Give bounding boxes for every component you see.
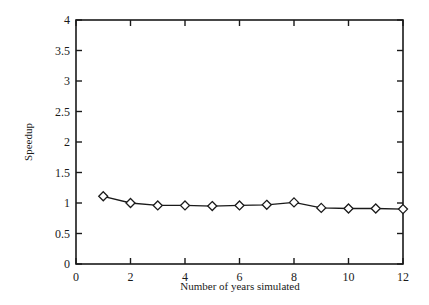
x-axis-label: Number of years simulated — [180, 280, 300, 292]
diamond-marker-icon — [344, 204, 353, 213]
y-tick-label: 1 — [64, 196, 70, 210]
diamond-marker-icon — [371, 204, 380, 213]
y-tick-label: 3.5 — [55, 44, 70, 58]
y-tick-label: 1.5 — [55, 166, 70, 180]
series-line — [103, 196, 403, 209]
diamond-marker-icon — [235, 201, 244, 210]
speedup-line-chart: 00.511.522.533.54 024681012 Number of ye… — [0, 0, 429, 305]
diamond-marker-icon — [153, 201, 162, 210]
plot-border — [76, 20, 403, 264]
diamond-marker-icon — [126, 199, 135, 208]
x-tick-label: 10 — [343, 270, 355, 284]
diamond-marker-icon — [99, 192, 108, 201]
y-axis-label: Speedup — [22, 123, 34, 161]
diamond-marker-icon — [290, 198, 299, 207]
diamond-marker-icon — [399, 205, 408, 214]
diamond-marker-icon — [208, 202, 217, 211]
diamond-marker-icon — [317, 203, 326, 212]
x-tick-label: 0 — [73, 270, 79, 284]
x-axis-ticks: 024681012 — [73, 20, 409, 284]
x-tick-label: 12 — [397, 270, 409, 284]
y-tick-label: 0.5 — [55, 227, 70, 241]
diamond-marker-icon — [262, 200, 271, 209]
y-axis-ticks: 00.511.522.533.54 — [55, 13, 403, 271]
y-tick-label: 2.5 — [55, 105, 70, 119]
data-series — [99, 192, 408, 214]
diamond-marker-icon — [181, 201, 190, 210]
y-tick-label: 0 — [64, 257, 70, 271]
y-tick-label: 3 — [64, 74, 70, 88]
x-tick-label: 2 — [128, 270, 134, 284]
plot-frame — [76, 20, 403, 264]
y-tick-label: 2 — [64, 135, 70, 149]
y-tick-label: 4 — [64, 13, 70, 27]
